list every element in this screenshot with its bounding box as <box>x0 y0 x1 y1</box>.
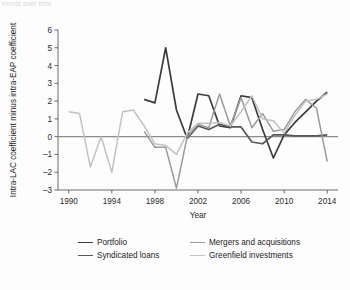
legend-label: Portfolio <box>97 238 127 247</box>
y-tick-label: 2 <box>47 97 52 106</box>
series-line-portfolio <box>144 48 327 158</box>
chart-plot-area: –3–2–10123456199019941998200220062010201… <box>0 12 350 232</box>
x-tick-label: 2002 <box>189 197 208 206</box>
series-line-greenfield-investments <box>69 94 327 172</box>
x-tick-label: 1994 <box>103 197 122 206</box>
chart-legend: PortfolioMergers and acquisitionsSyndica… <box>0 238 350 278</box>
legend-swatch-greenfield-investments <box>190 255 205 256</box>
x-tick-label: 1998 <box>146 197 165 206</box>
legend-item[interactable]: Portfolio <box>78 238 190 247</box>
x-tick-label: 1990 <box>60 197 79 206</box>
legend-item[interactable]: Syndicated loans <box>78 251 190 260</box>
x-axis-title: Year <box>190 211 207 220</box>
legend-swatch-syndicated-loans <box>78 255 93 256</box>
y-tick-label: 4 <box>47 62 52 71</box>
legend-swatch-portfolio <box>78 242 93 243</box>
y-tick-label: 0 <box>47 133 52 142</box>
legend-label: Syndicated loans <box>97 251 159 260</box>
line-chart: –3–2–10123456199019941998200220062010201… <box>0 12 350 232</box>
y-tick-label: –3 <box>43 186 53 195</box>
y-tick-label: 5 <box>47 44 52 53</box>
y-tick-label: 1 <box>47 115 52 124</box>
x-tick-label: 2010 <box>275 197 294 206</box>
x-tick-label: 2014 <box>318 197 337 206</box>
legend-label: Mergers and acquisitions <box>209 238 300 247</box>
legend-item[interactable]: Greenfield investments <box>190 251 328 260</box>
y-tick-label: 6 <box>47 26 52 35</box>
y-axis-title: Intra-LAC coefficient minus intra-EAP co… <box>9 22 18 197</box>
y-tick-label: –1 <box>43 150 53 159</box>
figure-caption: trends over time <box>2 0 52 7</box>
legend-swatch-mergers-and-acquisitions <box>190 242 205 243</box>
legend-item[interactable]: Mergers and acquisitions <box>190 238 328 247</box>
legend-label: Greenfield investments <box>209 251 293 260</box>
y-tick-label: –2 <box>43 168 53 177</box>
y-tick-label: 3 <box>47 79 52 88</box>
x-tick-label: 2006 <box>232 197 251 206</box>
figure-container: trends over time –3–2–101234561990199419… <box>0 0 350 290</box>
